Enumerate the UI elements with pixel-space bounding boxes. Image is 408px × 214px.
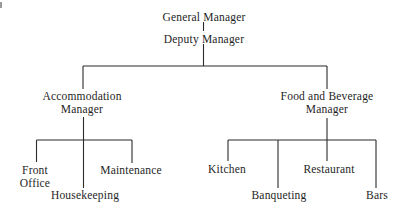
node-housekeeping: Housekeeping <box>51 189 119 202</box>
node-label: Bars <box>366 189 388 201</box>
node-banqueting: Banqueting <box>251 189 306 202</box>
node-label: Banqueting <box>251 189 306 201</box>
node-label-line1: Food and Beverage <box>281 90 374 103</box>
node-label: General Manager <box>162 11 245 23</box>
node-deputy-manager: Deputy Manager <box>164 33 244 46</box>
node-label-line1: Accommodation <box>42 90 121 103</box>
node-restaurant: Restaurant <box>303 163 354 176</box>
node-bars: Bars <box>366 189 388 202</box>
node-label-line2: Manager <box>281 103 374 116</box>
node-label: Kitchen <box>208 163 246 175</box>
node-kitchen: Kitchen <box>208 163 246 176</box>
node-label-line2: Manager <box>42 103 121 116</box>
node-accommodation-manager: Accommodation Manager <box>42 90 121 115</box>
node-label: Maintenance <box>100 164 162 176</box>
node-label: Housekeeping <box>51 189 119 201</box>
node-food-and-beverage-manager: Food and Beverage Manager <box>281 90 374 115</box>
node-front-office: Front Office <box>20 164 50 189</box>
node-general-manager: General Manager <box>162 11 245 24</box>
node-label-line1: Front <box>20 164 50 177</box>
node-label-line2: Office <box>20 177 50 190</box>
node-label: Restaurant <box>303 163 354 175</box>
node-maintenance: Maintenance <box>100 164 162 177</box>
node-label: Deputy Manager <box>164 33 244 45</box>
